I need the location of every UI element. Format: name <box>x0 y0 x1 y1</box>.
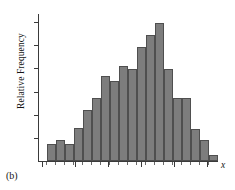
x-axis-major-tick <box>42 162 43 167</box>
histogram-bar <box>119 66 128 161</box>
histogram-bar <box>146 35 155 161</box>
x-axis-minor-tick <box>154 162 155 165</box>
x-axis-minor-tick <box>199 162 200 165</box>
histogram-bars <box>39 14 218 161</box>
x-axis-minor-tick <box>208 162 209 165</box>
y-axis-title: Relative Frequency <box>16 6 26 136</box>
histogram-bar <box>110 81 119 161</box>
x-axis-minor-tick <box>109 162 110 165</box>
histogram-bar <box>101 76 110 161</box>
x-axis-major-tick <box>75 162 76 167</box>
histogram-bar <box>47 144 56 161</box>
histogram-figure: Relative Frequency x (b) <box>0 0 235 190</box>
histogram-bar <box>173 98 182 161</box>
histogram-bar <box>83 110 92 161</box>
histogram-bar <box>65 144 74 161</box>
x-axis-minor-tick <box>118 162 119 165</box>
x-axis-minor-tick <box>136 162 137 165</box>
x-axis-minor-tick <box>82 162 83 165</box>
histogram-bar <box>155 23 164 161</box>
x-axis-minor-tick <box>172 162 173 165</box>
histogram-bar <box>128 69 137 161</box>
x-axis-minor-tick <box>73 162 74 165</box>
x-axis-minor-tick <box>100 162 101 165</box>
x-axis-major-tick <box>108 162 109 167</box>
x-axis-minor-tick <box>64 162 65 165</box>
x-axis-minor-tick <box>145 162 146 165</box>
histogram-bar <box>137 47 146 161</box>
x-axis-minor-tick <box>190 162 191 165</box>
x-axis-major-tick <box>207 162 208 167</box>
histogram-bar <box>191 129 200 161</box>
histogram-bar <box>92 98 101 161</box>
histogram-bar <box>182 98 191 161</box>
x-axis-minor-tick <box>163 162 164 165</box>
x-axis-minor-tick <box>181 162 182 165</box>
panel-caption: (b) <box>6 170 18 181</box>
x-axis-line <box>38 161 218 162</box>
histogram-bar <box>200 140 209 161</box>
x-axis-minor-tick <box>55 162 56 165</box>
x-axis-major-tick <box>174 162 175 167</box>
histogram-bar <box>164 69 173 161</box>
x-axis-title: x <box>221 160 225 170</box>
x-axis-minor-tick <box>46 162 47 165</box>
x-axis-minor-tick <box>127 162 128 165</box>
x-axis-major-tick <box>141 162 142 167</box>
plot-area <box>38 14 218 162</box>
histogram-bar <box>74 128 83 161</box>
histogram-bar <box>56 140 65 161</box>
histogram-bar <box>209 155 218 161</box>
x-axis-minor-tick <box>91 162 92 165</box>
